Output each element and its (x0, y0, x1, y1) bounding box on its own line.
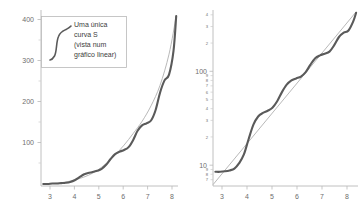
linear-ytick-200: 200 (22, 98, 34, 105)
log-reference-line (213, 12, 356, 185)
log-ytick-60: 6 (206, 90, 209, 95)
log-ytick-70: 7 (206, 83, 209, 88)
log-ytick-400: 4 (206, 12, 209, 17)
log-ytick-80: 8 (206, 78, 209, 83)
log-xtick-6: 6 (295, 193, 299, 200)
log-xtick-5: 5 (270, 193, 274, 200)
legend-line-2: curva S (74, 31, 98, 38)
legend: Uma única curva S (vista num gráfico lin… (42, 17, 127, 68)
linear-ytick-100: 100 (22, 139, 34, 146)
log-xtick-8: 8 (345, 193, 349, 200)
log-chart-svg: 7891023456789100234 3 4 5 6 7 8 (182, 0, 363, 209)
figure-container: 100 200 300 400 3 4 5 6 7 8 (0, 0, 363, 209)
linear-xtick-8: 8 (170, 193, 174, 200)
log-y-tick-labels: 7891023456789100234 (195, 12, 208, 182)
log-ytick-7: 7 (206, 177, 209, 182)
legend-line-1: Uma única (74, 21, 108, 28)
linear-y-ticks (38, 20, 42, 164)
log-ytick-10: 10 (199, 162, 207, 169)
legend-line-3: (vista num (74, 41, 106, 49)
linear-xtick-7: 7 (146, 193, 150, 200)
chart-panel-linear: 100 200 300 400 3 4 5 6 7 8 (0, 0, 182, 209)
log-ytick-20: 2 (206, 135, 209, 140)
log-ytick-200: 2 (206, 41, 209, 46)
log-xtick-7: 7 (320, 193, 324, 200)
log-ytick-100: 100 (195, 68, 207, 75)
linear-xtick-6: 6 (121, 193, 125, 200)
log-xtick-4: 4 (245, 193, 249, 200)
linear-ytick-300: 300 (22, 57, 34, 64)
legend-line-4: gráfico linear) (74, 51, 116, 59)
log-y-ticks (210, 15, 214, 180)
linear-chart-svg: 100 200 300 400 3 4 5 6 7 8 (0, 0, 182, 209)
log-ytick-8: 8 (206, 172, 209, 177)
linear-ytick-400: 400 (22, 16, 34, 23)
log-xtick-3: 3 (220, 193, 224, 200)
linear-x-ticks (50, 186, 172, 190)
log-ytick-30: 3 (206, 118, 209, 123)
log-ytick-40: 4 (206, 106, 209, 111)
linear-xtick-5: 5 (97, 193, 101, 200)
log-x-ticks (222, 186, 347, 190)
linear-xtick-4: 4 (72, 193, 76, 200)
log-ytick-300: 3 (206, 24, 209, 29)
chart-panel-log: 7891023456789100234 3 4 5 6 7 8 (182, 0, 363, 209)
linear-xtick-3: 3 (48, 193, 52, 200)
log-ytick-50: 5 (206, 97, 209, 102)
